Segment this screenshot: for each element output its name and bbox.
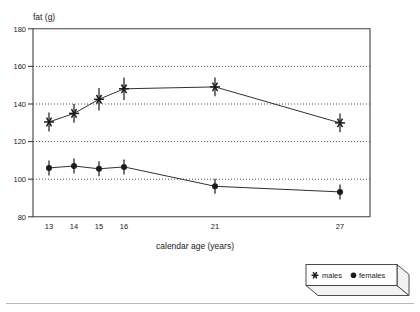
marker-females-15 <box>96 166 102 172</box>
y-tick-label-100: 100 <box>13 175 26 184</box>
y-tick-label-120: 120 <box>13 137 26 146</box>
plot-frame <box>33 29 370 217</box>
x-tick-label-27: 27 <box>336 222 344 231</box>
y-tick-marks <box>28 29 33 217</box>
figure-panel: fat (g) 180 160 140 120 100 <box>0 0 420 312</box>
y-tick-label-80: 80 <box>18 213 26 222</box>
legend-label-females: females <box>359 271 386 280</box>
series-males <box>44 78 345 133</box>
series-males-line <box>49 87 340 123</box>
x-tick-labels: 13 14 15 16 21 27 <box>45 222 344 231</box>
marker-females-21 <box>212 183 218 189</box>
y-axis-title: fat (g) <box>33 12 55 22</box>
gridlines <box>33 66 370 179</box>
frame-rect <box>33 29 370 217</box>
legend-dot-icon <box>351 273 357 279</box>
marker-females-27 <box>337 189 343 195</box>
y-tick-label-180: 180 <box>13 25 26 34</box>
marker-females-14 <box>71 163 77 169</box>
marker-females-13 <box>46 165 52 171</box>
legend-label-males: males <box>322 271 342 280</box>
y-tick-label-140: 140 <box>13 100 26 109</box>
chart-canvas: fat (g) 180 160 140 120 100 <box>0 0 420 312</box>
series-females-line <box>49 166 340 192</box>
x-tick-label-13: 13 <box>45 222 53 231</box>
x-tick-label-14: 14 <box>70 222 78 231</box>
x-tick-label-16: 16 <box>120 222 128 231</box>
y-tick-label-160: 160 <box>13 62 26 71</box>
x-axis-title: calendar age (years) <box>156 241 234 251</box>
legend-box-bottom-face <box>306 286 409 296</box>
legend[interactable]: males females <box>306 265 409 296</box>
y-tick-labels: 180 160 140 120 100 80 <box>13 25 26 222</box>
marker-females-16 <box>121 164 127 170</box>
x-tick-label-15: 15 <box>95 222 103 231</box>
x-tick-label-21: 21 <box>211 222 219 231</box>
